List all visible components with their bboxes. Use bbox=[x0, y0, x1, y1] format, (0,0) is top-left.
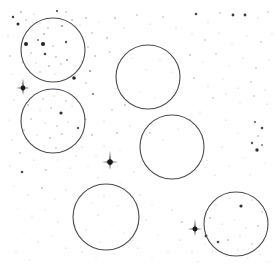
point-source bbox=[116, 132, 118, 134]
point-source bbox=[27, 194, 28, 195]
point-source bbox=[257, 17, 258, 18]
point-source bbox=[65, 100, 66, 101]
point-source bbox=[195, 13, 198, 16]
point-source bbox=[16, 252, 17, 253]
point-source bbox=[55, 147, 56, 148]
point-source bbox=[149, 23, 150, 24]
point-source bbox=[41, 42, 45, 46]
point-source bbox=[261, 211, 262, 212]
point-source bbox=[37, 39, 39, 41]
point-source bbox=[24, 42, 28, 46]
point-source bbox=[250, 81, 251, 82]
point-source bbox=[228, 165, 229, 166]
point-source bbox=[92, 93, 94, 95]
point-source bbox=[81, 146, 82, 147]
point-source bbox=[215, 204, 216, 205]
point-source bbox=[65, 189, 66, 190]
point-source bbox=[248, 258, 249, 259]
point-source bbox=[100, 242, 101, 243]
point-source bbox=[66, 59, 68, 61]
point-source bbox=[229, 66, 230, 67]
point-source bbox=[229, 197, 230, 198]
point-source bbox=[109, 51, 110, 52]
point-source bbox=[145, 219, 146, 220]
point-source bbox=[149, 132, 150, 133]
point-source bbox=[237, 87, 238, 88]
point-source bbox=[139, 194, 140, 195]
point-source bbox=[20, 11, 22, 13]
point-source bbox=[112, 224, 113, 225]
point-source bbox=[118, 206, 119, 207]
point-source bbox=[178, 129, 179, 130]
point-source bbox=[238, 133, 239, 134]
point-source bbox=[268, 262, 269, 263]
point-source bbox=[242, 57, 243, 58]
point-source bbox=[71, 105, 72, 106]
point-source bbox=[52, 45, 53, 46]
point-source bbox=[48, 65, 50, 67]
point-source bbox=[75, 155, 76, 156]
point-source bbox=[56, 125, 57, 126]
point-source bbox=[266, 103, 267, 104]
point-source bbox=[259, 253, 260, 254]
starfield-figure bbox=[0, 0, 277, 272]
point-source bbox=[56, 10, 58, 12]
point-source bbox=[12, 74, 13, 75]
point-source bbox=[232, 14, 235, 17]
point-source bbox=[245, 227, 246, 228]
point-source bbox=[158, 235, 159, 236]
point-source bbox=[13, 99, 14, 100]
point-source bbox=[221, 223, 222, 224]
point-source bbox=[85, 229, 86, 230]
point-source bbox=[251, 142, 253, 144]
point-source bbox=[212, 97, 213, 98]
sky-canvas bbox=[0, 0, 277, 272]
point-source bbox=[65, 247, 66, 248]
point-source bbox=[221, 146, 222, 147]
point-source bbox=[251, 199, 252, 200]
point-source bbox=[267, 11, 268, 12]
point-source bbox=[234, 220, 235, 221]
point-source bbox=[23, 129, 24, 130]
point-source bbox=[120, 150, 121, 151]
point-source bbox=[239, 235, 240, 236]
point-source bbox=[9, 55, 10, 56]
point-source bbox=[60, 63, 61, 64]
point-source bbox=[25, 19, 26, 20]
point-source bbox=[36, 134, 37, 135]
point-source bbox=[44, 122, 45, 123]
point-source bbox=[172, 72, 173, 73]
point-source bbox=[264, 89, 265, 90]
point-source bbox=[50, 107, 51, 108]
point-source bbox=[89, 70, 91, 72]
point-source bbox=[137, 247, 138, 248]
point-source bbox=[254, 121, 256, 123]
point-source bbox=[155, 98, 156, 99]
point-source bbox=[30, 118, 31, 119]
point-source bbox=[162, 16, 163, 17]
point-source bbox=[17, 23, 20, 26]
point-source bbox=[9, 120, 10, 121]
point-source bbox=[72, 76, 76, 80]
point-source bbox=[261, 144, 263, 146]
point-source bbox=[140, 92, 141, 93]
point-source bbox=[96, 156, 97, 157]
point-source bbox=[244, 158, 245, 159]
point-source bbox=[214, 174, 215, 175]
point-source bbox=[251, 243, 252, 244]
point-source bbox=[227, 239, 229, 241]
point-source bbox=[79, 24, 80, 25]
point-source bbox=[52, 236, 53, 237]
point-source bbox=[255, 148, 258, 151]
point-source bbox=[226, 256, 227, 257]
point-source bbox=[111, 109, 112, 110]
point-source bbox=[97, 214, 98, 215]
point-source bbox=[179, 239, 180, 240]
point-source bbox=[219, 12, 220, 13]
point-source bbox=[257, 225, 258, 226]
point-source bbox=[239, 204, 242, 207]
point-source bbox=[171, 209, 172, 210]
point-source bbox=[42, 98, 43, 99]
point-source bbox=[162, 139, 163, 140]
point-source bbox=[55, 56, 57, 58]
